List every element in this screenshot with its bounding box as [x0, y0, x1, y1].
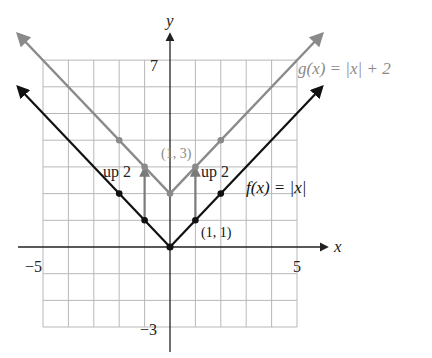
up-2-label-right: up 2 — [201, 163, 229, 181]
x-axis-label: x — [333, 237, 342, 256]
graph-canvas: y x 7 −3 −5 5 g(x) = |x| + 2 f(x) = |x| … — [0, 0, 432, 358]
f-function-label: f(x) = |x| — [246, 178, 306, 197]
tick-label-x-5: 5 — [293, 258, 301, 275]
up-2-label-left: up 2 — [103, 163, 131, 181]
point-label-1-1: (1, 1) — [201, 225, 232, 241]
tick-label-x-neg5: −5 — [25, 258, 42, 275]
point-label-1-3: (1, 3) — [161, 146, 192, 162]
tick-label-y-neg3: −3 — [140, 321, 157, 338]
g-function-label: g(x) = |x| + 2 — [298, 59, 391, 78]
tick-label-y-7: 7 — [150, 57, 158, 74]
y-axis-label: y — [164, 11, 174, 30]
